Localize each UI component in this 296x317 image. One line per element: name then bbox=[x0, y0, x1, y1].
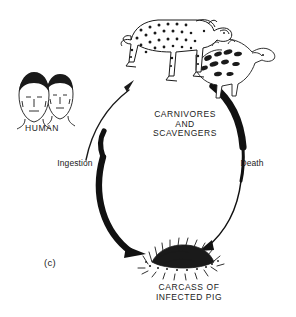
node-label-human: HUMAN bbox=[6, 124, 78, 134]
carnivores-line-2: AND bbox=[175, 119, 195, 129]
leopard-and-hyena-icon bbox=[121, 20, 275, 98]
node-label-carnivores: CARNIVORESANDSCAVENGERS bbox=[130, 110, 240, 139]
panel-label: (c) bbox=[44, 258, 74, 269]
arrow-label-death: Death bbox=[228, 159, 276, 169]
node-label-carcass: CARCASS OFINFECTED PIG bbox=[133, 283, 245, 302]
human-to-carnivores-arrow-icon bbox=[86, 80, 134, 160]
carcass-line-2: INFECTED PIG bbox=[156, 292, 222, 302]
carnivores-line-3: SCAVENGERS bbox=[153, 128, 217, 138]
carnivores-line-1: CARNIVORES bbox=[154, 109, 216, 119]
figure-panel: HUMAN CARNIVORESANDSCAVENGERS CARCASS OF… bbox=[0, 0, 296, 317]
carcass-line-1: CARCASS OF bbox=[159, 282, 220, 292]
arrow-label-ingestion: Ingestion bbox=[38, 159, 112, 169]
two-human-heads-icon bbox=[17, 72, 75, 129]
ingestion-arrow-icon bbox=[99, 131, 146, 258]
